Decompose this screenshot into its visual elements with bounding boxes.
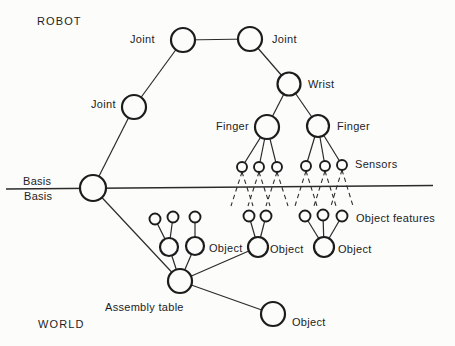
node-feature-b1 (244, 211, 255, 222)
node-sensor-4 (301, 161, 311, 171)
robot-world-hierarchy-diagram: ROBOT Joint Joint Joint Wrist Finger Fin… (0, 0, 455, 346)
node-feature-b2 (261, 211, 272, 222)
node-object-a1 (160, 238, 178, 256)
node-sensor-6 (337, 160, 347, 170)
node-joint-top-right (238, 27, 262, 51)
node-feature-a1 (150, 214, 161, 225)
dashed-sensor3-left (266, 172, 277, 206)
labels: ROBOT Joint Joint Joint Wrist Finger Fin… (23, 15, 435, 330)
node-feature-c3 (337, 211, 348, 222)
node-joint-top-left (171, 28, 195, 52)
sensor-dashed-links (231, 170, 353, 206)
nodes (80, 27, 348, 326)
label-object-right: Object (338, 243, 372, 255)
label-region-world: WORLD (38, 318, 84, 330)
node-feature-a2 (168, 212, 179, 223)
edge-assembly-objectD (180, 281, 273, 314)
node-object-bottom (261, 302, 285, 326)
node-assembly-table (168, 269, 192, 293)
node-object-a2 (186, 237, 204, 255)
node-object-b (248, 237, 268, 257)
basis-divider-line (6, 186, 433, 190)
node-sensor-3 (272, 162, 282, 172)
node-finger-right (307, 115, 329, 137)
dashed-sensor6-right (342, 170, 353, 206)
label-joint-middle: Joint (91, 98, 116, 110)
node-feature-a3 (190, 212, 201, 223)
label-basis-below: Basis (24, 190, 53, 202)
dashed-sensor5-left (314, 171, 325, 206)
node-wrist (278, 73, 301, 96)
solid-edges (93, 39, 342, 314)
dashed-sensor1-right (242, 172, 253, 206)
dashed-sensor5-right (325, 171, 336, 206)
dashed-sensor3-right (277, 172, 288, 206)
edge-basis-assembly (93, 188, 180, 281)
dashed-sensor6-left (331, 170, 342, 206)
label-finger-left: Finger (216, 120, 249, 132)
node-object-c (314, 237, 334, 257)
node-sensor-5 (320, 161, 330, 171)
dashed-sensor4-left (295, 171, 306, 206)
label-object-bottom: Object (292, 316, 326, 328)
label-sensors: Sensors (355, 158, 398, 170)
diagram-canvas: ROBOT Joint Joint Joint Wrist Finger Fin… (0, 0, 455, 346)
label-object-left: Object (209, 242, 243, 254)
node-feature-c2 (318, 210, 329, 221)
label-wrist: Wrist (308, 78, 334, 90)
node-joint-middle (122, 95, 146, 119)
label-assembly-table: Assembly table (105, 301, 184, 313)
label-region-robot: ROBOT (37, 15, 82, 27)
label-joint-top-left: Joint (130, 33, 155, 45)
label-basis-above: Basis (23, 175, 52, 187)
node-sensor-1 (237, 162, 247, 172)
label-joint-top-right: Joint (272, 33, 297, 45)
dashed-sensor1-left (231, 172, 242, 206)
node-finger-left (255, 115, 279, 139)
dashed-sensor2-right (259, 172, 270, 206)
dashed-sensor4-right (306, 171, 317, 206)
node-sensor-2 (254, 162, 264, 172)
node-basis (80, 175, 106, 201)
label-finger-right: Finger (337, 120, 370, 132)
node-feature-c1 (300, 211, 311, 222)
dashed-sensor2-left (248, 172, 259, 206)
label-object-center: Object (270, 243, 304, 255)
label-object-features: Object features (356, 212, 435, 224)
